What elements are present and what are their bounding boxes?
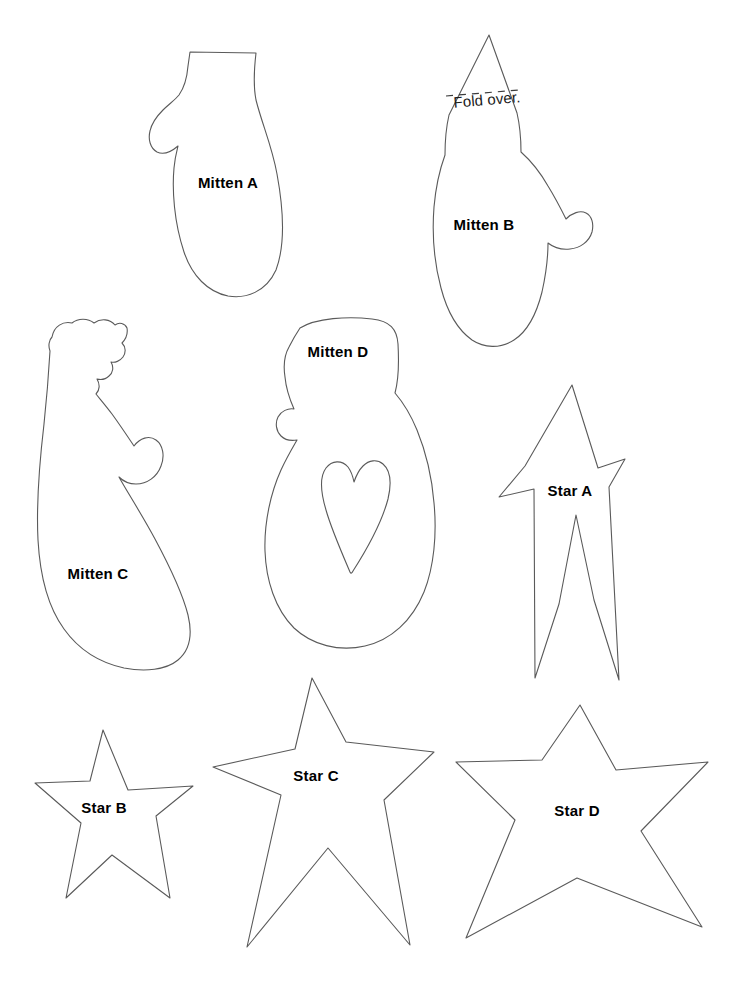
shape-star-d[interactable]: Star D: [456, 705, 708, 938]
mitten-c-label: Mitten C: [68, 565, 129, 582]
mitten-a-label: Mitten A: [198, 174, 258, 191]
shape-mitten-b[interactable]: Fold over. Mitten B: [433, 35, 592, 346]
mitten-c-outline[interactable]: [37, 319, 190, 670]
shape-star-a[interactable]: Star A: [499, 385, 625, 680]
mitten-d-outline[interactable]: [265, 318, 435, 648]
mitten-b-label: Mitten B: [454, 216, 515, 233]
shape-mitten-a[interactable]: Mitten A: [149, 52, 282, 297]
shape-mitten-d[interactable]: Mitten D: [265, 318, 435, 648]
star-c-outline[interactable]: [213, 678, 434, 947]
star-d-outline[interactable]: [456, 705, 708, 938]
pattern-sheet: Mitten A Fold over. Mitten B Mitten C Mi…: [0, 0, 733, 986]
star-b-label: Star B: [81, 799, 126, 816]
star-a-label: Star A: [548, 482, 593, 499]
shape-star-b[interactable]: Star B: [35, 730, 193, 898]
pattern-canvas: Mitten A Fold over. Mitten B Mitten C Mi…: [0, 0, 733, 986]
star-d-label: Star D: [554, 802, 599, 819]
shape-mitten-c[interactable]: Mitten C: [37, 319, 190, 670]
star-a-outline[interactable]: [499, 385, 625, 680]
mitten-b-outline[interactable]: [433, 35, 592, 346]
mitten-d-label: Mitten D: [308, 343, 369, 360]
star-c-label: Star C: [293, 767, 338, 784]
shape-star-c[interactable]: Star C: [213, 678, 434, 947]
